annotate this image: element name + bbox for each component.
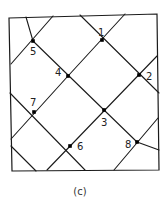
node-label-1: 1 (98, 27, 104, 38)
edge-line (47, 56, 157, 170)
edge-line (26, 17, 33, 41)
edge-line (11, 76, 68, 139)
node-3 (102, 108, 106, 112)
node-4 (66, 74, 70, 78)
node-1 (100, 38, 104, 42)
edges-group (10, 14, 159, 171)
edge-line (137, 142, 159, 150)
edge-line (104, 110, 137, 142)
node-label-2: 2 (146, 71, 152, 82)
node-2 (137, 73, 141, 77)
node-label-5: 5 (30, 46, 36, 57)
node-label-6: 6 (77, 141, 83, 152)
edge-line (68, 14, 125, 76)
node-label-4: 4 (55, 67, 61, 78)
figure-caption: (c) (73, 186, 86, 197)
edge-line (11, 146, 36, 171)
node-5 (31, 39, 35, 43)
node-8 (135, 140, 139, 144)
network-diagram: 12345678 (c) (0, 0, 166, 204)
node-7 (32, 110, 36, 114)
node-label-7: 7 (30, 97, 36, 108)
node-6 (68, 144, 72, 148)
node-label-3: 3 (101, 117, 107, 128)
node-labels-group: 12345678 (30, 27, 152, 152)
edge-line (10, 93, 85, 170)
node-label-8: 8 (125, 139, 131, 150)
